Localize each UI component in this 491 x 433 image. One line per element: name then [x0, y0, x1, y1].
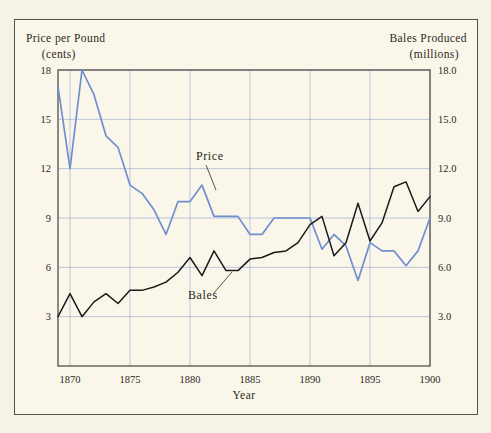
- left-tick-label: 6: [46, 262, 51, 273]
- series-line-bales: [58, 182, 430, 317]
- x-tick-label: 1870: [60, 374, 81, 385]
- x-axis-name: Year: [232, 389, 255, 401]
- left-axis-tick-labels: 181512963: [41, 65, 52, 323]
- left-tick-label: 18: [41, 65, 52, 76]
- right-tick-label: 12.0: [438, 163, 456, 174]
- x-tick-label: 1900: [420, 374, 441, 385]
- annotation-label-bales: Bales: [188, 288, 218, 302]
- right-tick-label: 15.0: [438, 114, 456, 125]
- left-tick-label: 15: [41, 114, 52, 125]
- left-tick-label: 9: [46, 213, 51, 224]
- annotation-label-price: Price: [196, 149, 224, 163]
- plot-canvas: 181512963 18.015.012.09.06.03.0 18701875…: [0, 0, 491, 433]
- series-annotations: PriceBales: [188, 149, 232, 302]
- right-tick-label: 9.0: [438, 213, 451, 224]
- x-tick-label: 1895: [360, 374, 381, 385]
- right-axis-tick-labels: 18.015.012.09.06.03.0: [438, 65, 456, 323]
- right-tick-label: 18.0: [438, 65, 456, 76]
- data-series: [58, 70, 430, 317]
- x-tick-label: 1890: [300, 374, 321, 385]
- x-tick-label: 1880: [180, 374, 201, 385]
- x-tick-label: 1885: [240, 374, 261, 385]
- gridlines: [58, 70, 430, 366]
- right-tick-label: 3.0: [438, 311, 451, 322]
- chart-figure: Price per Pound (cents) Bales Produced (…: [0, 0, 491, 433]
- left-tick-label: 12: [41, 163, 52, 174]
- x-tick-label: 1875: [120, 374, 141, 385]
- x-axis-tick-labels: 1870187518801885189018951900: [60, 374, 441, 385]
- left-tick-label: 3: [46, 311, 51, 322]
- right-tick-label: 6.0: [438, 262, 451, 273]
- series-line-price: [58, 70, 430, 280]
